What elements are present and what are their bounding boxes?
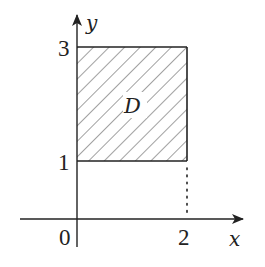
region-diagram: D y x 3 1 2 0 [0,0,265,267]
y-tick-label-3: 3 [58,36,70,61]
origin-label: 0 [59,225,71,250]
y-tick-label-1: 1 [58,150,70,175]
x-axis-label: x [229,227,240,251]
y-axis-label: y [85,11,98,35]
region-label: D [123,94,141,118]
x-tick-label-2: 2 [178,225,190,250]
